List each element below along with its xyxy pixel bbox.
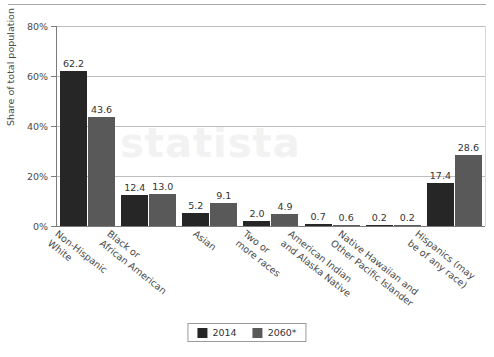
bar-value-label: 0.6 <box>339 212 354 223</box>
bar[interactable]: 28.6 <box>455 155 482 227</box>
chart-legend: 20142060* <box>187 323 306 342</box>
bar-chart: statista Share of total population 0%20%… <box>0 0 494 357</box>
plot-right-border <box>485 26 486 226</box>
legend-item[interactable]: 2060* <box>253 327 297 338</box>
bar-value-label: 28.6 <box>458 142 479 153</box>
bar-value-label: 0.2 <box>400 212 415 223</box>
y-axis-tick-label: 80% <box>27 21 48 32</box>
x-axis-tick-label: Black orAfrican American <box>98 228 176 296</box>
bar[interactable]: 5.2 <box>182 213 209 226</box>
bar[interactable]: 4.9 <box>271 214 298 226</box>
bar-group: 5.29.1 <box>179 26 240 226</box>
bar-value-label: 0.7 <box>311 211 326 222</box>
bar-value-label: 17.4 <box>430 170 451 181</box>
x-axis-tick-label: Two ormore races <box>234 228 290 279</box>
bar[interactable]: 13.0 <box>149 194 176 227</box>
bar-value-label: 43.6 <box>91 104 112 115</box>
bar-group: 17.428.6 <box>424 26 485 226</box>
bar-value-label: 13.0 <box>152 181 173 192</box>
y-axis-tick-label: 0% <box>33 221 48 232</box>
x-axis-line <box>56 226 485 227</box>
legend-item[interactable]: 2014 <box>197 327 236 338</box>
x-axis-tick-label: Asian <box>191 228 219 253</box>
bar[interactable]: 0.6 <box>333 225 360 227</box>
bar-value-label: 9.1 <box>216 190 231 201</box>
bar-group: 0.70.6 <box>302 26 363 226</box>
bar[interactable]: 9.1 <box>210 203 237 226</box>
bar[interactable]: 2.0 <box>243 221 270 226</box>
bar-value-label: 2.0 <box>249 208 264 219</box>
bar[interactable]: 62.2 <box>60 71 87 227</box>
legend-swatch <box>197 328 207 338</box>
bar[interactable]: 0.7 <box>305 224 332 226</box>
legend-label: 2014 <box>212 327 236 338</box>
bar[interactable]: 17.4 <box>427 183 454 227</box>
bar-group: 2.04.9 <box>240 26 301 226</box>
bar-value-label: 12.4 <box>124 182 145 193</box>
bar-value-label: 62.2 <box>63 58 84 69</box>
x-axis-labels: Non-HispanicWhiteBlack orAfrican America… <box>57 228 485 323</box>
bar[interactable]: 43.6 <box>88 117 115 226</box>
y-axis-tick <box>51 226 57 227</box>
header-divider <box>8 4 486 5</box>
bar-group: 62.243.6 <box>57 26 118 226</box>
legend-label: 2060* <box>268 327 297 338</box>
bar-value-label: 0.2 <box>372 212 387 223</box>
x-axis-tick-label: Hispanics (maybe of any race) <box>406 228 478 291</box>
bar[interactable]: 0.2 <box>366 225 393 226</box>
bar-value-label: 5.2 <box>188 200 203 211</box>
y-axis-tick-label: 60% <box>27 71 48 82</box>
bar-group: 12.413.0 <box>118 26 179 226</box>
legend-swatch <box>253 328 263 338</box>
bar-group: 0.20.2 <box>363 26 424 226</box>
y-axis-tick-label: 40% <box>27 121 48 132</box>
y-axis-title: Share of total population <box>5 8 16 126</box>
bar-value-label: 4.9 <box>277 201 292 212</box>
bar[interactable]: 0.2 <box>394 225 421 226</box>
x-axis-tick-label: Non-HispanicWhite <box>46 228 110 285</box>
plot-area: 0%20%40%60%80%62.243.612.413.05.29.12.04… <box>57 26 485 226</box>
y-axis-tick-label: 20% <box>27 171 48 182</box>
bar[interactable]: 12.4 <box>121 195 148 226</box>
